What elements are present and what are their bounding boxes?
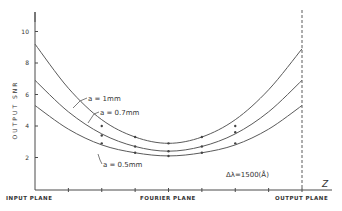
- y-tick-label: 8: [25, 59, 29, 66]
- y-tick-label: 10: [21, 28, 29, 35]
- data-point-a=0.5mm: [101, 142, 103, 144]
- data-point-a=0.5mm: [134, 152, 136, 154]
- y-tick-label: 2: [25, 154, 29, 161]
- data-point-a=0.5mm: [201, 152, 203, 154]
- input-plane-label: INPUT PLANE: [6, 195, 52, 201]
- curve-label-a-1mm: a = 1mm: [88, 95, 121, 103]
- data-point-a=1mm: [234, 125, 236, 127]
- output-plane-label: OUTPUT PLANE: [275, 195, 328, 201]
- axes: 246810: [21, 10, 332, 192]
- fourier-plane-label: FOURIER PLANE: [140, 195, 196, 201]
- x-axis-label: Z: [321, 179, 329, 189]
- data-point-a=0.7mm: [101, 134, 103, 136]
- data-point-a=0.5mm: [167, 155, 169, 157]
- y-tick-label: 6: [25, 91, 29, 98]
- series-line-a=0.5mm: [35, 106, 302, 156]
- data-point-a=0.7mm: [201, 145, 203, 147]
- data-point-a=1mm: [101, 125, 103, 127]
- data-point-a=0.7mm: [134, 145, 136, 147]
- data-point-a=0.7mm: [234, 131, 236, 133]
- snr-chart: 246810 OUTPUT SNR Z INPUT PLANE FOURIER …: [0, 0, 342, 211]
- markers: [101, 125, 237, 157]
- data-point-a=1mm: [201, 136, 203, 138]
- y-tick-label: 4: [25, 122, 29, 129]
- series-line-a=1mm: [35, 44, 302, 143]
- curve-label-a-0.7mm: a = 0.7mm: [100, 109, 140, 117]
- curves: [35, 44, 302, 164]
- data-point-a=1mm: [167, 142, 169, 144]
- leader-a-1mm: [73, 98, 87, 108]
- annotation-delta-lambda: Δλ=1500(Å): [226, 170, 269, 179]
- curve-label-a-0.5mm: a = 0.5mm: [103, 161, 143, 169]
- data-point-a=1mm: [134, 136, 136, 138]
- data-point-a=0.5mm: [234, 142, 236, 144]
- series-line-a=0.7mm: [35, 80, 302, 151]
- y-axis-label: OUTPUT SNR: [11, 81, 18, 140]
- data-point-a=0.7mm: [167, 150, 169, 152]
- leader-a-0.5mm: [98, 154, 102, 164]
